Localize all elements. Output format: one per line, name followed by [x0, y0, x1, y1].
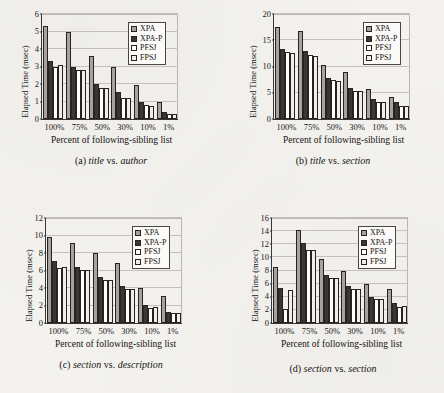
y-axis-label-b: Elapsed Time (msec)	[248, 45, 258, 118]
legend-swatch-icon	[361, 259, 367, 265]
bar-group	[298, 14, 318, 119]
x-tick-label: 100%	[277, 122, 297, 132]
bar	[334, 278, 339, 323]
legend-item: XPA	[361, 229, 392, 237]
bar	[313, 56, 318, 119]
caption-b-prefix: (b)	[296, 155, 310, 166]
legend-label: XPA	[144, 229, 159, 237]
caption-b: (b) title vs. section	[222, 155, 444, 166]
x-tick-label: 1%	[393, 326, 404, 336]
legend-label: PFSJ	[140, 44, 156, 52]
caption-a: (a) title vs. author	[0, 155, 222, 166]
x-tick-label: 50%	[325, 326, 341, 336]
bar	[402, 306, 407, 323]
x-tick-label: 30%	[121, 326, 137, 336]
figure-page: Elapsed Time (msec) 0123456 100%75%50%30…	[0, 0, 444, 393]
caption-c-vs: vs.	[101, 359, 117, 370]
caption-c: (c) section vs. description	[0, 359, 222, 370]
legend-c: XPAXPA-PPFSJFPSJ	[132, 226, 170, 269]
x-tick-label: 100%	[49, 326, 69, 336]
bar	[404, 106, 409, 119]
caption-d-prefix: (d)	[289, 363, 303, 374]
bar-group	[89, 14, 109, 119]
bar	[290, 53, 295, 119]
bar	[62, 267, 67, 323]
caption-c-right: description	[118, 359, 163, 370]
bar	[358, 91, 363, 119]
legend-label: XPA-P	[375, 35, 397, 43]
chart-b: Elapsed Time (msec) 05101520 100%75%50%3…	[222, 0, 444, 196]
x-tick-label: 75%	[76, 326, 92, 336]
legend-item: PFSJ	[131, 44, 162, 52]
legend-label: FPSJ	[375, 54, 391, 62]
caption-a-prefix: (a)	[75, 155, 89, 166]
bar-group	[273, 218, 293, 323]
legend-d: XPAXPA-PPFSJFPSJ	[358, 226, 396, 269]
caption-b-right: section	[342, 155, 370, 166]
legend-swatch-icon	[131, 45, 137, 51]
legend-label: PFSJ	[370, 248, 386, 256]
caption-d-vs: vs.	[332, 363, 348, 374]
legend-label: PFSJ	[375, 44, 391, 52]
bar-group	[43, 14, 63, 119]
legend-label: FPSJ	[370, 258, 386, 266]
legend-label: XPA-P	[144, 239, 166, 247]
legend-label: PFSJ	[144, 248, 160, 256]
x-tick-label: 50%	[327, 122, 343, 132]
chart-panel-b: Elapsed Time (msec) 05101520 100%75%50%3…	[222, 0, 444, 196]
legend-item: XPA	[135, 229, 166, 237]
legend-swatch-icon	[366, 36, 372, 42]
legend-swatch-icon	[135, 230, 141, 236]
caption-c-prefix: (c)	[59, 359, 73, 370]
bar	[85, 270, 90, 323]
chart-panel-a: Elapsed Time (msec) 0123456 100%75%50%30…	[0, 0, 222, 196]
chart-panel-c: Elapsed Time (msec) 024681012 100%75%50%…	[0, 196, 222, 393]
legend-item: XPA-P	[361, 239, 392, 247]
bar	[176, 313, 181, 324]
x-tick-label: 75%	[304, 122, 320, 132]
x-tick-label: 100%	[45, 122, 65, 132]
bar	[81, 70, 86, 119]
chart-a: Elapsed Time (msec) 0123456 100%75%50%30…	[0, 0, 222, 196]
x-tick-label: 30%	[349, 122, 365, 132]
caption-c-left: section	[73, 359, 101, 370]
legend-item: PFSJ	[135, 248, 166, 256]
legend-item: XPA-P	[366, 35, 397, 43]
x-tick-labels-d: 100%75%50%30%10%1%	[271, 326, 408, 336]
legend-item: FPSJ	[131, 54, 162, 62]
legend-item: PFSJ	[366, 44, 397, 52]
bar-group	[70, 218, 90, 323]
bar	[108, 280, 113, 323]
legend-label: FPSJ	[140, 54, 156, 62]
y-axis-label-c: Elapsed Time (msec)	[24, 249, 34, 322]
caption-a-vs: vs.	[104, 155, 120, 166]
bar-group	[47, 218, 67, 323]
caption-a-left: title	[88, 155, 104, 166]
bar-group	[343, 14, 363, 119]
legend-swatch-icon	[366, 26, 372, 32]
bar	[311, 250, 316, 323]
caption-b-vs: vs.	[326, 155, 342, 166]
x-tick-label: 100%	[275, 326, 295, 336]
x-axis-label-d: Percent of following-sibling list	[244, 339, 439, 349]
caption-a-right: author	[120, 155, 147, 166]
bar	[381, 102, 386, 119]
x-tick-label: 10%	[144, 326, 160, 336]
legend-swatch-icon	[135, 240, 141, 246]
x-tick-label: 75%	[302, 326, 318, 336]
x-tick-labels-c: 100%75%50%30%10%1%	[45, 326, 182, 336]
bar-group	[275, 14, 295, 119]
legend-item: XPA-P	[135, 239, 166, 247]
legend-item: FPSJ	[366, 54, 397, 62]
chart-panel-d: Elapsed Time (msec) 0246810121416 100%75…	[222, 196, 444, 393]
chart-d: Elapsed Time (msec) 0246810121416 100%75…	[222, 196, 444, 393]
legend-b: XPAXPA-PPFSJFPSJ	[363, 22, 401, 65]
bar	[288, 290, 293, 323]
bar	[130, 289, 135, 323]
x-tick-label: 10%	[140, 122, 156, 132]
y-axis-label-a: Elapsed Time (msec)	[20, 45, 30, 118]
x-tick-label: 50%	[99, 326, 115, 336]
legend-label: XPA	[375, 25, 390, 33]
legend-swatch-icon	[361, 249, 367, 255]
legend-swatch-icon	[361, 240, 367, 246]
